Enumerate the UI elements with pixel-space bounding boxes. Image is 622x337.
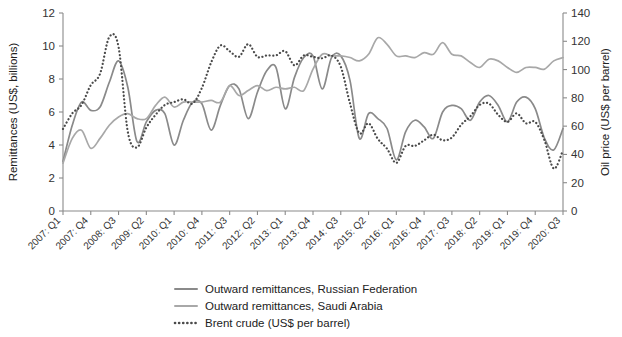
left-axis-title: Remittances (US$, billions) [7,42,19,181]
left-axis-tick-label: 6 [49,106,55,118]
left-axis-tick-label: 8 [49,73,55,85]
legend-item-1: Outward remittances, Saudi Arabia [175,300,383,312]
chart-container: 024681012020406080100120140Remittances (… [0,0,622,337]
legend-item-2: Brent crude (US$ per barrel) [175,317,350,329]
right-axis-tick-label: 0 [571,205,577,217]
line-chart: 024681012020406080100120140Remittances (… [0,0,622,337]
right-axis-title: Oil price (US$ per barrel) [599,48,611,176]
right-axis-tick-label: 120 [571,35,590,47]
legend-label-1: Outward remittances, Saudi Arabia [205,300,383,312]
right-axis-tick-label: 100 [571,64,590,76]
left-axis-tick-label: 10 [42,40,55,52]
right-axis-tick-label: 80 [571,92,584,104]
legend-item-0: Outward remittances, Russian Federation [175,283,417,295]
left-axis-tick-label: 2 [49,172,55,184]
left-axis-tick-label: 4 [49,139,56,151]
series-line-2 [63,34,563,169]
right-axis-tick-label: 40 [571,148,584,160]
right-axis-tick-label: 140 [571,7,590,19]
legend-label-0: Outward remittances, Russian Federation [205,283,417,295]
left-axis-tick-label: 12 [42,7,55,19]
right-axis-tick-label: 20 [571,177,584,189]
legend-label-2: Brent crude (US$ per barrel) [205,317,350,329]
right-axis-tick-label: 60 [571,120,584,132]
